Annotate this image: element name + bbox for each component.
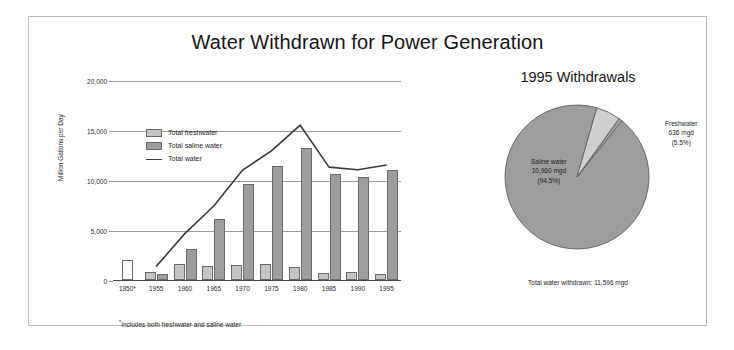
legend-item: Total freshwater	[146, 127, 276, 138]
pie-label-freshwater-name: Freshwater	[665, 119, 698, 128]
y-axis-tick-label: 0	[103, 278, 107, 285]
x-axis-tick-label: 1960	[178, 285, 192, 292]
y-axis-tick-mark	[109, 281, 113, 282]
bar-chart-panel: Million Gallons per Day 05,00010,00015,0…	[51, 69, 441, 319]
pie-total-caption: Total water withdrawn: 11,596 mgd	[449, 279, 707, 286]
bar-freshwater-1990	[346, 272, 357, 280]
x-axis-tick-label: 1985	[322, 285, 336, 292]
pie-label-saline: Saline water 10,960 mgd (94.5%)	[531, 157, 567, 185]
bar-saline-1970	[243, 184, 254, 280]
footnote: *Includes both freshwater and saline wat…	[119, 319, 241, 328]
legend-label: Total water	[168, 155, 202, 162]
pie-label-freshwater: Freshwater 636 mgd (5.5%)	[665, 119, 698, 147]
bar-saline-1965	[214, 219, 225, 280]
legend-swatch-line-icon	[146, 155, 162, 163]
legend-label: Total freshwater	[168, 129, 217, 136]
y-axis-tick-mark	[109, 231, 113, 232]
bar-freshwater-1965	[202, 266, 213, 280]
pie-chart-title: 1995 Withdrawals	[449, 69, 707, 85]
bar-freshwater-1975	[260, 264, 271, 280]
bar-freshwater-1980	[289, 267, 300, 280]
legend-label: Total saline water	[168, 142, 222, 149]
pie-label-freshwater-percent: (5.5%)	[665, 138, 698, 147]
legend-swatch-saline-icon	[146, 142, 162, 150]
x-axis-line	[113, 280, 401, 281]
bar-freshwater-1960	[174, 264, 185, 280]
x-axis-tick-label: 1990	[351, 285, 365, 292]
bar-saline-1990	[358, 177, 369, 280]
chart-legend: Total freshwater Total saline water Tota…	[146, 127, 276, 166]
bar-freshwater-1955	[145, 272, 156, 280]
bar-saline-1960	[186, 249, 197, 280]
gridline	[113, 81, 401, 82]
x-axis-tick-label: 1980	[293, 285, 307, 292]
bar-saline-1995	[387, 170, 398, 280]
legend-swatch-freshwater-icon	[146, 129, 162, 137]
x-axis-tick-label: 1975	[264, 285, 278, 292]
x-axis-tick-label: 1965	[207, 285, 221, 292]
pie-label-freshwater-value: 636 mgd	[665, 128, 698, 137]
pie-label-saline-name: Saline water	[531, 157, 567, 166]
y-axis-tick-mark	[109, 181, 113, 182]
figure-title: Water Withdrawn for Power Generation	[29, 31, 706, 54]
y-axis-title: Million Gallons per Day	[57, 114, 64, 181]
x-axis-tick-label: 1995	[379, 285, 393, 292]
legend-item: Total saline water	[146, 140, 276, 151]
bar-saline-1975	[272, 166, 283, 281]
figure-panel: Water Withdrawn for Power Generation Mil…	[28, 16, 707, 326]
y-axis-tick-label: 5,000	[91, 228, 107, 235]
legend-item: Total water	[146, 153, 276, 164]
y-axis-tick-label: 20,000	[87, 78, 107, 85]
bar-freshwater-1970	[231, 265, 242, 280]
bar-combined-1950*	[122, 260, 133, 280]
bar-freshwater-1985	[318, 273, 329, 280]
y-axis-tick-mark	[109, 131, 113, 132]
pie-svg	[497, 97, 657, 257]
pie-chart-panel: 1995 Withdrawals Saline water 10,960 mgd…	[449, 69, 707, 319]
bar-plot-area: 05,00010,00015,00020,000 1950*1955196019…	[113, 81, 401, 281]
y-axis-tick-label: 10,000	[87, 178, 107, 185]
x-axis-tick-label: 1950*	[119, 285, 136, 292]
x-axis-tick-label: 1970	[235, 285, 249, 292]
pie-label-saline-percent: (94.5%)	[531, 176, 567, 185]
footnote-text: Includes both freshwater and saline wate…	[121, 321, 241, 328]
pie-graphic: Saline water 10,960 mgd (94.5%) Freshwat…	[497, 97, 657, 257]
pie-label-saline-value: 10,960 mgd	[531, 166, 567, 175]
x-axis-tick-label: 1955	[149, 285, 163, 292]
y-axis-tick-mark	[109, 81, 113, 82]
bar-saline-1985	[330, 174, 341, 281]
y-axis-tick-label: 15,000	[87, 128, 107, 135]
bar-saline-1980	[301, 148, 312, 281]
